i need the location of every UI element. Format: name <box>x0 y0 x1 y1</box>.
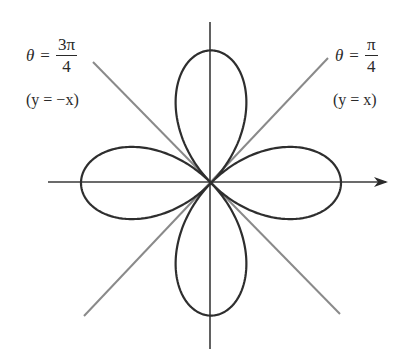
fraction-numerator: 3π <box>56 36 77 56</box>
equals-sign: = <box>349 47 359 64</box>
line-equation-y-equals-x: (y = x) <box>333 92 377 108</box>
theta-symbol: θ <box>26 47 34 64</box>
equals-sign: = <box>40 47 50 64</box>
fraction-denominator: 4 <box>62 56 71 75</box>
line-equation-y-equals-minus-x: (y = −x) <box>26 92 79 108</box>
fraction: π 4 <box>365 36 378 75</box>
label-pi-over-4: θ = π 4 <box>335 36 378 75</box>
fraction-denominator: 4 <box>367 56 376 75</box>
fraction: 3π 4 <box>56 36 77 75</box>
label-3pi-over-4: θ = 3π 4 <box>26 36 77 75</box>
theta-symbol: θ <box>335 47 343 64</box>
fraction-numerator: π <box>365 36 378 56</box>
